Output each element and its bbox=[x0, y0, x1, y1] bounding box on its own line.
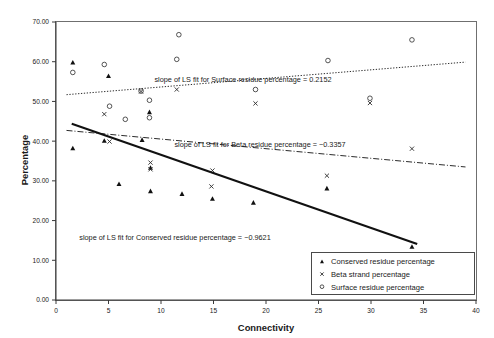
data-point bbox=[177, 32, 182, 37]
data-point bbox=[147, 98, 152, 103]
y-tick-label: 50.00 bbox=[32, 98, 49, 105]
x-tick-label: 25 bbox=[315, 307, 323, 314]
chart-figure: 0.0010.0020.0030.0040.0050.0060.0070.00 … bbox=[0, 0, 494, 338]
data-point bbox=[123, 117, 128, 122]
data-point bbox=[326, 58, 331, 63]
data-point bbox=[70, 146, 75, 151]
data-point bbox=[209, 184, 213, 188]
x-tick-label: 30 bbox=[367, 307, 375, 314]
annotations: slope of LS fit for Surface residue perc… bbox=[79, 75, 345, 242]
data-point bbox=[71, 70, 76, 75]
x-tick-label: 5 bbox=[107, 307, 111, 314]
x-tick-label: 10 bbox=[157, 307, 165, 314]
legend-item-label: Conserved residue percentage bbox=[331, 257, 435, 266]
data-point bbox=[409, 244, 414, 249]
fit-lines bbox=[67, 62, 466, 244]
x-tick-label: 15 bbox=[210, 307, 218, 314]
data-point bbox=[253, 87, 258, 92]
series-triangle bbox=[70, 60, 414, 249]
data-point bbox=[147, 115, 152, 120]
data-point bbox=[253, 101, 257, 105]
data-point bbox=[324, 186, 329, 191]
data-point bbox=[102, 138, 107, 143]
y-axis: 0.0010.0020.0030.0040.0050.0060.0070.00 bbox=[32, 18, 56, 303]
data-point bbox=[106, 73, 111, 78]
legend-item-1[interactable]: Beta strand percentage bbox=[320, 270, 410, 279]
legend-item-label: Beta strand percentage bbox=[331, 270, 410, 279]
data-point bbox=[325, 174, 329, 178]
legend-item-2[interactable]: Surface residue percentage bbox=[320, 283, 424, 292]
data-point bbox=[410, 147, 414, 151]
y-tick-label: 30.00 bbox=[32, 177, 49, 184]
scatter-plot: 0.0010.0020.0030.0040.0050.0060.0070.00 … bbox=[0, 0, 494, 338]
data-point bbox=[175, 87, 179, 91]
data-point bbox=[368, 96, 373, 101]
data-point bbox=[70, 60, 75, 65]
y-tick-label: 10.00 bbox=[32, 257, 49, 264]
data-point bbox=[102, 62, 107, 67]
data-point bbox=[210, 196, 215, 201]
y-tick-label: 70.00 bbox=[32, 18, 49, 25]
x-tick-label: 35 bbox=[420, 307, 428, 314]
data-point bbox=[148, 160, 152, 164]
data-point bbox=[410, 38, 415, 43]
legend-item-label: Surface residue percentage bbox=[331, 283, 424, 292]
data-point bbox=[117, 181, 122, 186]
data-point bbox=[368, 101, 372, 105]
data-point bbox=[147, 110, 152, 115]
conserved-slope-annotation: slope of LS fit for Conserved residue pe… bbox=[79, 233, 270, 242]
x-tick-label: 0 bbox=[54, 307, 58, 314]
data-point bbox=[251, 200, 256, 205]
x-tick-label: 40 bbox=[472, 307, 480, 314]
y-tick-label: 0.00 bbox=[36, 296, 49, 303]
data-point bbox=[107, 139, 111, 143]
legend-item-0[interactable]: Conserved residue percentage bbox=[320, 257, 435, 266]
data-point bbox=[102, 112, 106, 116]
data-point bbox=[180, 191, 185, 196]
y-tick-label: 40.00 bbox=[32, 138, 49, 145]
x-axis-title: Connectivity bbox=[238, 322, 295, 333]
surface-slope-annotation: slope of LS fit for Surface residue perc… bbox=[154, 75, 331, 84]
data-point bbox=[107, 104, 112, 109]
x-tick-label: 20 bbox=[262, 307, 270, 314]
data-point bbox=[174, 57, 179, 62]
x-axis: 0510152025303540 bbox=[54, 300, 480, 314]
data-point bbox=[140, 137, 145, 142]
beta-slope-annotation: slope of LS fit for Beta residue percent… bbox=[174, 140, 345, 149]
y-axis-title: Percentage bbox=[19, 135, 30, 186]
y-tick-label: 20.00 bbox=[32, 217, 49, 224]
y-tick-label: 60.00 bbox=[32, 58, 49, 65]
chart-legend: Conserved residue percentageBeta strand … bbox=[312, 253, 475, 295]
data-point bbox=[148, 189, 153, 194]
